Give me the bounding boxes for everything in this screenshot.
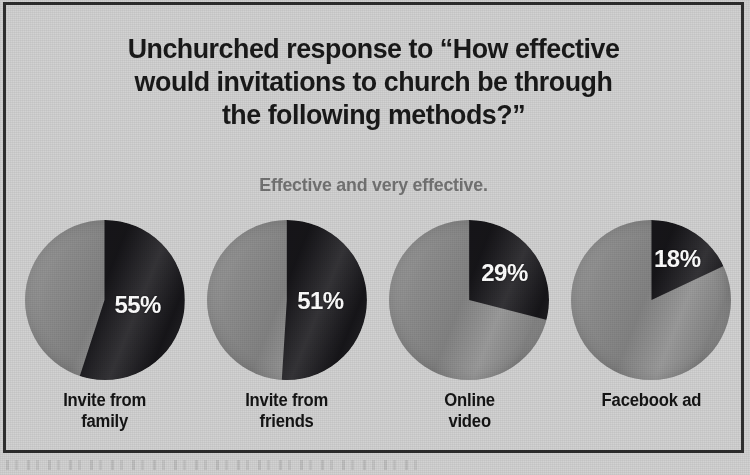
pie-category-label-1-line2: family xyxy=(63,411,146,432)
chart-title: Unchurched response to “How effective wo… xyxy=(3,32,744,131)
pie-category-label-4-line1: Facebook ad xyxy=(602,390,702,410)
pie-value-label-4: 18% xyxy=(654,245,701,273)
pie-cell-facebook-ad: 18% Facebook ad xyxy=(564,220,739,411)
pie-wrap-2: 51% xyxy=(207,220,367,380)
pie-chart-4 xyxy=(571,220,731,380)
pie-slice-dark-4 xyxy=(571,220,731,380)
pie-category-label-2: Invite from friends xyxy=(245,390,328,432)
pie-category-label-1: Invite from family xyxy=(63,390,146,432)
pie-category-label-3: Online video xyxy=(444,390,495,432)
pie-category-label-3-line2: video xyxy=(444,411,495,432)
pie-value-label-2: 51% xyxy=(297,287,344,315)
pie-value-label-1: 55% xyxy=(114,291,161,319)
pie-category-label-3-line1: Online xyxy=(444,390,495,410)
pie-category-label-2-line2: friends xyxy=(245,411,328,432)
pie-wrap-3: 29% xyxy=(389,220,549,380)
chart-inner-area: Unchurched response to “How effective wo… xyxy=(3,2,744,453)
pie-category-label-2-line1: Invite from xyxy=(245,390,328,410)
title-line-3: the following methods?” xyxy=(50,98,698,131)
title-line-2: would invitations to church be through xyxy=(50,65,698,98)
pie-chart-group: 55% Invite from family 51% Invite from f… xyxy=(17,220,739,400)
chart-subtitle: Effective and very effective. xyxy=(18,174,729,196)
pie-value-label-3: 29% xyxy=(481,259,528,287)
pie-slice-dark-3 xyxy=(389,220,549,380)
pie-chart-3 xyxy=(389,220,549,380)
title-line-1: Unchurched response to “How effective xyxy=(50,32,698,65)
pie-cell-invite-from-family: 55% Invite from family xyxy=(17,220,192,432)
pie-cell-invite-from-friends: 51% Invite from friends xyxy=(199,220,374,432)
scan-artifact-footer xyxy=(6,460,426,470)
pie-wrap-4: 18% xyxy=(571,220,731,380)
pie-category-label-1-line1: Invite from xyxy=(63,390,146,410)
chart-figure: Unchurched response to “How effective wo… xyxy=(0,0,750,475)
pie-category-label-4: Facebook ad xyxy=(602,390,702,411)
pie-wrap-1: 55% xyxy=(25,220,185,380)
pie-cell-online-video: 29% Online video xyxy=(382,220,557,432)
